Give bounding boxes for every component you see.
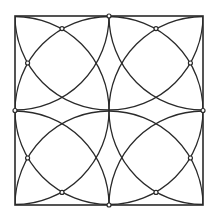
marked-point [154, 27, 158, 31]
arc-2-1 [109, 17, 212, 205]
marked-point [13, 109, 17, 113]
arc-group [0, 0, 212, 219]
marked-point [26, 61, 30, 65]
marked-point [188, 156, 192, 160]
marked-point [60, 190, 64, 194]
marked-point [107, 203, 111, 207]
geometric-diagram [0, 0, 212, 219]
marked-point [60, 27, 64, 31]
marked-point [107, 14, 111, 18]
marked-point [154, 190, 158, 194]
marked-point [26, 156, 30, 160]
marked-point [201, 109, 205, 113]
marked-point [188, 61, 192, 65]
